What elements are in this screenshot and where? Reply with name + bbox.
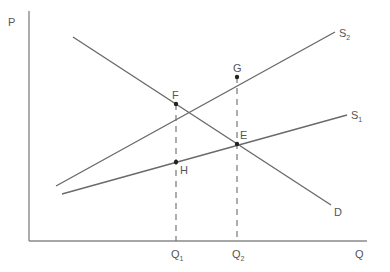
supply-2-label: S2 — [339, 27, 350, 41]
point-e — [235, 142, 239, 146]
point-e-label: E — [240, 129, 247, 141]
point-h — [174, 160, 178, 164]
supply-2-curve — [56, 32, 335, 186]
point-f-label: F — [172, 89, 179, 101]
x-axis-label: Q — [355, 248, 364, 260]
supply-1-curve — [62, 115, 347, 194]
q1-label: Q1 — [171, 248, 184, 262]
point-g — [235, 75, 239, 79]
demand-label: D — [334, 206, 342, 218]
y-axis-label: P — [8, 16, 15, 28]
supply-1-label: S1 — [351, 109, 362, 123]
point-f — [174, 102, 178, 106]
supply-demand-diagram: P Q D S2 S1 F G E H Q1 Q2 — [0, 0, 390, 272]
point-g-label: G — [233, 62, 242, 74]
q2-label: Q2 — [232, 248, 245, 262]
point-h-label: H — [180, 164, 188, 176]
